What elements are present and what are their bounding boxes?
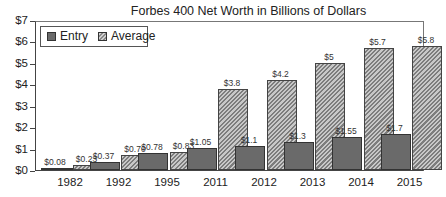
y-tick-mark [30, 171, 35, 172]
x-tick-label: 1992 [94, 176, 144, 188]
value-label: $5.8 [406, 35, 446, 45]
legend-label-average: Average [111, 29, 155, 43]
y-tick-label: $6 [0, 35, 28, 47]
x-tick-label: 2015 [385, 176, 435, 188]
x-tick-label: 2014 [336, 176, 386, 188]
y-tick-label: $2 [0, 121, 28, 133]
y-tick-mark [30, 107, 35, 108]
value-label: $1.55 [326, 126, 366, 136]
y-tick-mark [30, 64, 35, 65]
value-label: $5.7 [358, 37, 398, 47]
chart-title: Forbes 400 Net Worth in Billions of Doll… [0, 4, 437, 18]
bar-entry-2014 [332, 137, 362, 170]
legend-swatch-entry [47, 32, 56, 41]
bar-entry-2012 [235, 146, 265, 170]
value-label: $4.2 [261, 69, 301, 79]
y-tick-mark [30, 128, 35, 129]
y-tick-label: $1 [0, 143, 28, 155]
y-tick-mark [30, 150, 35, 151]
x-tick-label: 1995 [142, 176, 192, 188]
value-label: $1.05 [181, 137, 221, 147]
value-label: $3.8 [212, 78, 252, 88]
bar-entry-1995 [138, 153, 168, 170]
x-tick-label: 2013 [288, 176, 338, 188]
legend-label-entry: Entry [60, 29, 88, 43]
legend-swatch-average [98, 32, 107, 41]
y-tick-mark [30, 42, 35, 43]
x-tick-label: 2011 [191, 176, 241, 188]
y-tick-label: $0 [0, 164, 28, 176]
x-tick-label: 2012 [239, 176, 289, 188]
bar-entry-2015 [381, 134, 411, 170]
value-label: $1.7 [375, 123, 415, 133]
y-tick-label: $7 [0, 14, 28, 26]
y-tick-mark [30, 21, 35, 22]
y-tick-mark [30, 85, 35, 86]
value-label: $5 [309, 52, 349, 62]
value-label: $1.1 [229, 135, 269, 145]
y-tick-label: $4 [0, 78, 28, 90]
value-label: $1.3 [278, 131, 318, 141]
bar-average-2015 [412, 46, 442, 170]
legend: Entry Average [40, 26, 148, 47]
y-tick-label: $5 [0, 57, 28, 69]
x-tick-label: 1982 [45, 176, 95, 188]
bar-entry-1982 [41, 168, 73, 170]
y-tick-label: $3 [0, 100, 28, 112]
bar-entry-2013 [284, 142, 314, 170]
